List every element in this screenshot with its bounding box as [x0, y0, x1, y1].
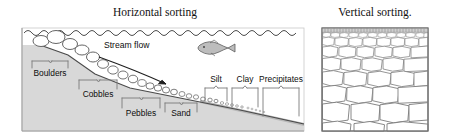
silt-label: Silt	[210, 74, 222, 84]
stream-flow-label: Stream flow	[104, 40, 150, 50]
small-clast-row	[323, 32, 429, 37]
sand-label: Sand	[171, 108, 191, 118]
clay-label: Clay	[237, 74, 255, 84]
precipitates-label: Precipitates	[259, 74, 303, 84]
clast-row-6	[323, 85, 428, 103]
horizontal-sorting-panel: Stream flow Boulders Cobbles Pebbles San…	[22, 28, 304, 131]
medium-clast-row	[322, 37, 428, 47]
vertical-sorting-title: Vertical sorting.	[338, 6, 412, 19]
clast-row-7	[323, 102, 428, 123]
pebbles-label: Pebbles	[126, 108, 156, 118]
cobbles-label: Cobbles	[83, 89, 114, 99]
sediment-sorting-figure: Horizontal sorting Vertical sorting.	[0, 0, 449, 137]
clast-row-4	[323, 57, 428, 71]
clast-row-8	[323, 121, 428, 131]
clast-row-5	[323, 71, 428, 87]
boulders-label: Boulders	[33, 68, 66, 78]
horizontal-sorting-title: Horizontal sorting	[113, 6, 197, 19]
vertical-sorting-panel	[322, 28, 428, 131]
